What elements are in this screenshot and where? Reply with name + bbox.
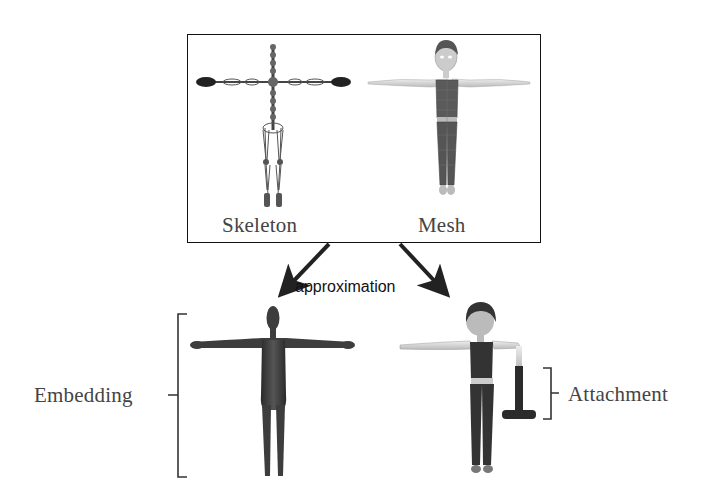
attachment-bracket [543,368,559,419]
embedding-label: Embedding [34,383,133,408]
attachment-label: Attachment [568,382,668,407]
skeleton-label: Skeleton [222,213,297,238]
attachment-figure [400,302,536,473]
approximation-label: approximation [295,278,396,296]
embedding-figure [190,306,355,476]
embedding-bracket [168,314,187,477]
mesh-label: Mesh [418,213,465,238]
input-panel [187,34,541,243]
